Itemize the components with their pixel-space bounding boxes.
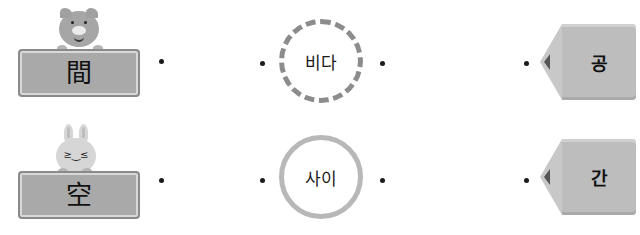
match-dot-word-2-right[interactable] <box>380 178 385 183</box>
meaning-circle-2[interactable]: 사이 <box>279 135 363 219</box>
match-dot-sound-2[interactable] <box>524 178 529 183</box>
hanja-card-2[interactable]: 空 <box>18 171 140 219</box>
meaning-text: 사이 <box>284 140 358 214</box>
match-dot-word-1-right[interactable] <box>380 61 385 66</box>
sound-pencil-1[interactable]: 공 <box>540 24 640 100</box>
match-dot-hanja-1[interactable] <box>159 59 164 64</box>
meaning-text: 비다 <box>284 24 358 98</box>
sound-text: 간 <box>562 139 636 215</box>
hanja-card-1[interactable]: 間 <box>18 49 140 97</box>
meaning-circle-1[interactable]: 비다 <box>279 19 363 103</box>
hanja-text: 空 <box>20 179 138 211</box>
hanja-text: 間 <box>20 57 138 89</box>
sound-text: 공 <box>562 24 636 100</box>
sound-pencil-2[interactable]: 간 <box>540 139 640 215</box>
match-dot-word-1-left[interactable] <box>260 61 265 66</box>
pig-icon <box>59 11 99 47</box>
match-dot-word-2-left[interactable] <box>260 178 265 183</box>
match-dot-sound-1[interactable] <box>524 61 529 66</box>
match-dot-hanja-2[interactable] <box>159 178 164 183</box>
